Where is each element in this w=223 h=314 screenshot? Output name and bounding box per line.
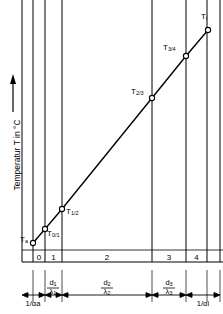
layer-number-2: 2 [62,253,152,262]
temperature-profile-line [33,30,208,243]
point-label-T23: T2/3 [131,88,144,96]
resistance-label-outer: 1/αa [15,299,51,308]
layer-number-3: 3 [152,253,186,262]
y-axis-label: Temperatur T in °C [12,75,22,235]
resistance-label-layer1: d1 λ1 [44,279,62,297]
diagram-graphics [0,0,223,314]
point-label-T01: T0/1 [47,230,60,238]
point-label-T34: T3/4 [163,44,176,52]
resistance-label-layer3: d3 λ3 [160,279,178,297]
axes [22,0,223,262]
resistance-label-inner: 1/αi [185,299,221,308]
point-label-T12: T1/2 [66,208,79,216]
layer-boundaries [33,0,220,262]
resistance-label-layer2: d2 λ2 [98,279,116,297]
diagram-canvas: Temperatur T in °C Ta T0/1 T1/2 T2/3 T3/… [0,0,223,314]
point-label-Ta: Ta [20,236,28,244]
point-label-Ti: Ti [201,13,207,21]
layer-number-1: 1 [45,253,62,262]
layer-number-4: 4 [186,253,207,262]
layer-number-0: 0 [33,253,45,262]
